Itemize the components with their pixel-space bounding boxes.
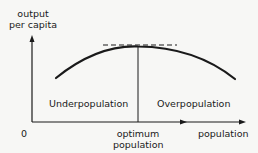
x-axis-label: population xyxy=(198,128,249,139)
optimum-label: optimum population xyxy=(113,128,163,150)
y-axis-label: output per capita xyxy=(8,8,58,30)
y-axis-label-line2: per capita xyxy=(8,19,58,30)
origin-label: 0 xyxy=(21,128,27,139)
right-region-label: Overpopulation xyxy=(157,98,230,109)
x-axis-arrow-icon xyxy=(239,120,246,125)
x-axis-mid-arrow-icon xyxy=(180,120,187,125)
left-region-label: Underpopulation xyxy=(49,98,128,109)
y-axis-arrow-icon xyxy=(30,35,35,42)
output-curve xyxy=(56,46,235,79)
optimum-label-line2: population xyxy=(113,139,163,150)
y-axis-label-line1: output xyxy=(8,8,58,19)
optimum-label-line1: optimum xyxy=(113,128,163,139)
